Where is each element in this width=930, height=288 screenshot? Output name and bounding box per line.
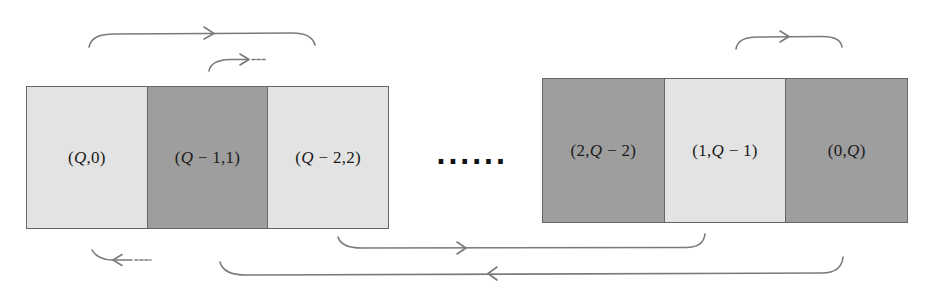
right-state-group: (2,Q − 2) (1,Q − 1) (0,Q) [542, 78, 908, 223]
arrow-top-right [736, 31, 842, 49]
left-state-group: (Q,0) (Q − 1,1) (Q − 2,2) [26, 86, 389, 229]
arrow-bottom-long [220, 257, 843, 280]
state-cell-q-0: (Q,0) [27, 87, 147, 228]
state-cell-2-q-minus-2: (2,Q − 2) [543, 79, 664, 222]
state-label: (2,Q − 2) [571, 141, 637, 161]
arrow-bottom-mid [338, 234, 705, 254]
state-cell-q-minus-2-2: (Q − 2,2) [267, 87, 388, 228]
ellipsis-dots: ...... [436, 142, 507, 168]
state-label: (Q,0) [68, 148, 106, 168]
state-cell-q-minus-1-1: (Q − 1,1) [147, 87, 268, 228]
arrow-top-left-long [89, 27, 315, 47]
arrow-bottom-left-short [92, 250, 151, 266]
state-cell-1-q-minus-1: (1,Q − 1) [664, 79, 786, 222]
state-cell-0-q: (0,Q) [785, 79, 907, 222]
state-label: (Q − 1,1) [175, 148, 241, 168]
arrow-top-left-short [209, 54, 266, 71]
state-label: (Q − 2,2) [295, 148, 361, 168]
state-label: (1,Q − 1) [692, 141, 758, 161]
state-label: (0,Q) [828, 141, 866, 161]
